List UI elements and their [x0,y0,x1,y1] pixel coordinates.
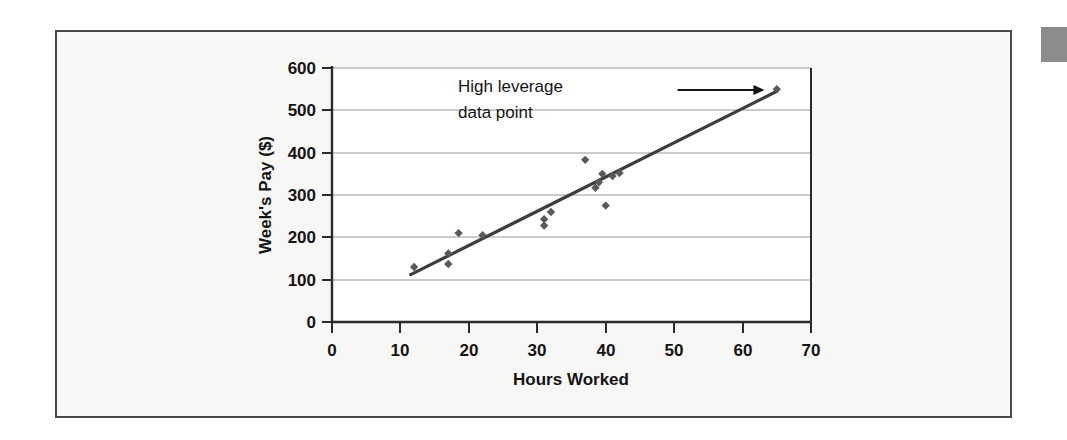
y-axis-ticks [322,68,332,322]
y-tick-label-500: 500 [288,101,316,120]
x-axis-title: Hours Worked [513,370,629,389]
x-tick-label-50: 50 [665,341,684,360]
y-tick-label-0: 0 [307,313,316,332]
y-tick-label-400: 400 [288,144,316,163]
x-tick-label-10: 10 [391,341,410,360]
annotation-line-2: data point [458,103,533,122]
y-tick-label-300: 300 [288,186,316,205]
x-tick-label-60: 60 [734,341,753,360]
y-axis-title: Week's Pay ($) [256,136,275,254]
x-tick-label-30: 30 [528,341,547,360]
x-tick-label-40: 40 [597,341,616,360]
x-axis-ticks [332,322,811,333]
y-tick-label-600: 600 [288,59,316,78]
annotation-line-1: High leverage [458,77,563,96]
y-tick-label-200: 200 [288,228,316,247]
x-tick-label-0: 0 [327,341,336,360]
y-tick-label-100: 100 [288,271,316,290]
scatter-chart: 600 500 400 300 200 100 0 0 10 20 30 40 … [0,0,1067,440]
chart-canvas: 600 500 400 300 200 100 0 0 10 20 30 40 … [0,0,1067,440]
x-tick-label-70: 70 [802,341,821,360]
x-tick-label-20: 20 [460,341,479,360]
